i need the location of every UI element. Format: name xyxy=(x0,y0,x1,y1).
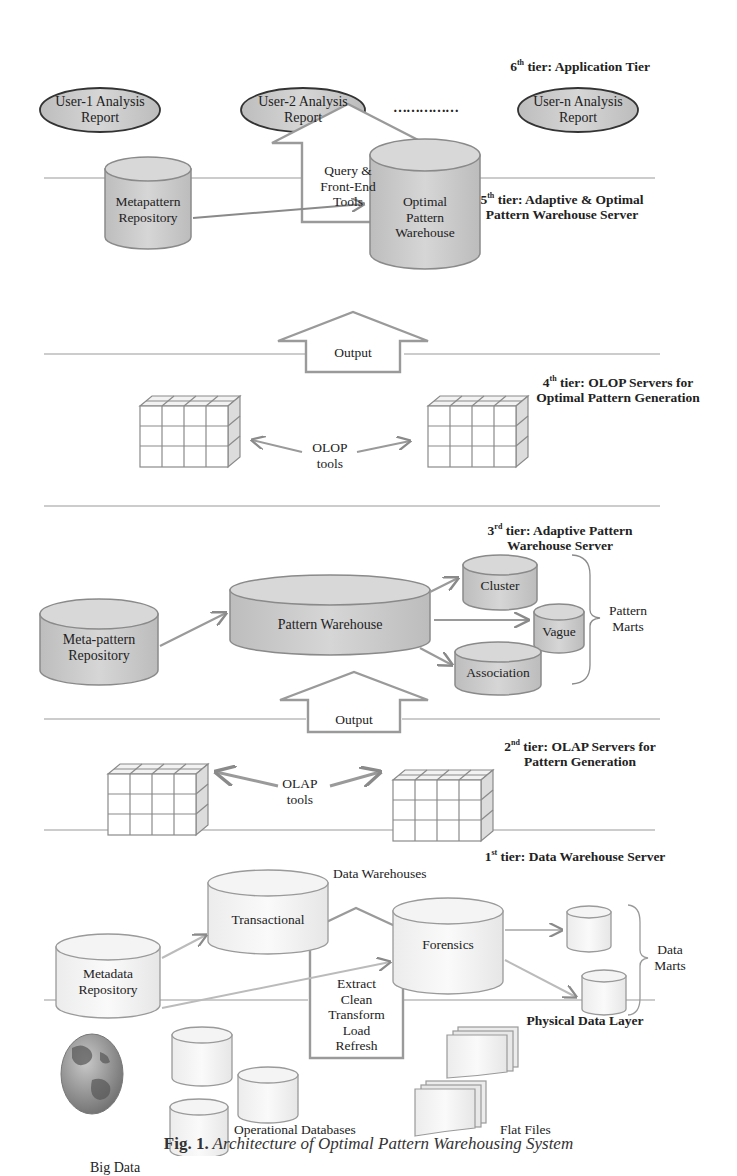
output-label-3: Output xyxy=(308,712,400,728)
big-data-label: Big Data xyxy=(90,1160,140,1176)
reports-ellipsis: …………… xyxy=(393,100,458,116)
olap-tools-label: OLAPtools xyxy=(270,776,330,807)
metadata-repository-label: MetadataRepository xyxy=(56,966,160,997)
olap-cube-right xyxy=(393,770,493,841)
olop-cube-right xyxy=(428,396,528,467)
olop-cube-left xyxy=(140,396,240,467)
pattern-warehouse-label: Pattern Warehouse xyxy=(230,617,430,633)
tier4-label: 4th tier: OLOP Servers for Optimal Patte… xyxy=(518,374,718,406)
user-2-report-label: User-2 AnalysisReport xyxy=(241,94,365,126)
tier3-label: 3rd tier: Adaptive Pattern Warehouse Ser… xyxy=(480,522,640,554)
data-mart-cylinder-2 xyxy=(582,970,626,1015)
data-marts-label: DataMarts xyxy=(650,942,690,973)
data-warehouses-label: Data Warehouses xyxy=(333,866,427,882)
output-arrow-5 xyxy=(278,312,428,372)
pattern-marts-label: PatternMarts xyxy=(603,603,653,634)
tier1-label: 1st tier: Data Warehouse Server xyxy=(470,848,680,864)
association-label: Association xyxy=(455,665,541,681)
data-mart-cylinder-1 xyxy=(567,906,611,952)
figure-caption: Fig. 1. Architecture of Optimal Pattern … xyxy=(0,1134,737,1154)
user-1-report-label: User-1 AnalysisReport xyxy=(40,94,160,126)
pattern-warehouse-cylinder xyxy=(230,575,430,655)
tier6-label: 6th tier: Application Tier xyxy=(480,58,680,74)
output-label-5: Output xyxy=(306,345,400,361)
vague-label: Vague xyxy=(534,624,584,640)
meta-pattern-repository-label: Meta-patternRepository xyxy=(40,632,158,664)
forensics-label: Forensics xyxy=(393,937,503,953)
olop-tools-label: OLOPtools xyxy=(300,440,360,471)
optimal-pattern-warehouse-label: OptimalPatternWarehouse xyxy=(370,194,480,241)
etl-label: ExtractCleanTransformLoadRefresh xyxy=(310,976,403,1054)
data-marts-brace xyxy=(628,905,648,1015)
metapattern-repository-label: MetapatternRepository xyxy=(105,194,191,225)
globe-icon xyxy=(61,1034,123,1114)
cluster-label: Cluster xyxy=(463,578,537,594)
transactional-label: Transactional xyxy=(208,912,328,928)
physical-layer-label: Physical Data Layer xyxy=(515,1013,655,1029)
tier5-label: 5th tier: Adaptive & Optimal Pattern War… xyxy=(462,191,662,223)
user-n-report-label: User-n AnalysisReport xyxy=(518,94,638,126)
tier2-label: 2nd tier: OLAP Servers for Pattern Gener… xyxy=(490,738,670,770)
flat-files-icon xyxy=(415,1027,518,1136)
olap-cube-left xyxy=(108,764,208,835)
